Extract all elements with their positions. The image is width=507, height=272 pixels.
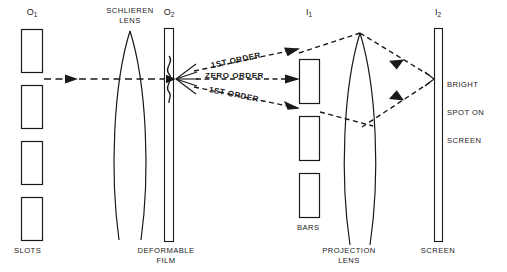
schlieren-diagram: O1 O2 I1 I2 SCHLIEREN LENS 1ST ORDER ZER…	[0, 0, 507, 272]
diffraction-fan-ray	[176, 64, 196, 79]
incident-ray-group	[44, 74, 170, 83]
zero-order-arrowhead	[285, 74, 300, 83]
converging-ray-upper	[360, 33, 432, 77]
plane-label-i2: I2	[435, 8, 441, 19]
schlieren-lens-caption-line2: LENS	[119, 16, 141, 25]
converging-rays-group	[360, 33, 434, 127]
slots-group	[22, 30, 43, 241]
screen-body	[435, 29, 443, 242]
converging-ray-upper-arrowhead	[389, 60, 404, 70]
projection-lens-caption-line1: PROJECTION	[322, 246, 375, 255]
bright-spot-annotation: BRIGHT SPOT ON SCREEN	[447, 61, 484, 164]
screen-caption: SCREEN	[421, 246, 455, 255]
bar-block	[300, 174, 320, 218]
plane-label-o1: O1	[27, 8, 38, 19]
deformable-film-group	[165, 29, 174, 242]
converging-ray-lower-arrowhead	[389, 90, 404, 100]
deformable-film-body	[165, 29, 174, 242]
deformable-film-caption-line1: DEFORMABLE	[138, 246, 195, 255]
slot-aperture	[22, 142, 43, 185]
projection-lens-left-surface	[344, 33, 360, 245]
diagram-canvas	[0, 0, 507, 272]
plane-label-o2: O2	[164, 8, 175, 19]
slot-aperture	[22, 86, 43, 129]
projection-lens-right-surface	[360, 33, 376, 245]
screen-group	[435, 29, 443, 242]
first-order-lower-arrowhead	[284, 101, 300, 110]
schlieren-lens-caption-line1: SCHLIEREN	[106, 6, 154, 15]
bar-block	[300, 60, 320, 104]
bright-spot-line3: SCREEN	[447, 136, 484, 145]
schlieren-lens-group	[114, 31, 146, 240]
diffraction-fan-ray	[176, 79, 197, 86]
upper-ray-to-projection-lens	[299, 33, 360, 53]
zero-order-label: ZERO ORDER	[205, 71, 264, 80]
bars-caption: BARS	[297, 223, 319, 232]
slots-caption: SLOTS	[14, 246, 41, 255]
incident-ray-arrowhead	[65, 74, 78, 83]
projection-lens-caption-line2: LENS	[338, 256, 360, 265]
projection-lens-group	[344, 33, 375, 245]
deformable-film-caption-line2: FILM	[156, 256, 175, 265]
bars-group	[300, 60, 320, 218]
diffraction-fan-ray	[176, 79, 196, 94]
slot-aperture	[22, 30, 43, 73]
diffraction-fan-ray	[176, 72, 197, 79]
first-order-upper-arrowhead	[284, 48, 300, 57]
plane-label-i1: I1	[306, 8, 312, 19]
schlieren-lens-left-surface	[114, 31, 130, 240]
slot-aperture	[22, 198, 43, 241]
schlieren-lens-right-surface	[130, 31, 146, 240]
bright-spot-line1: BRIGHT	[447, 80, 484, 89]
bright-spot-line2: SPOT ON	[447, 108, 484, 117]
bar-block	[300, 117, 320, 161]
